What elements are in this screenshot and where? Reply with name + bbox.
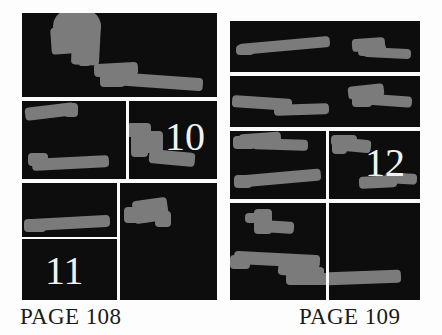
page-left[interactable]: 10 11 bbox=[22, 13, 217, 300]
panel-L5[interactable]: 11 bbox=[22, 239, 117, 300]
panel-L1[interactable] bbox=[22, 13, 217, 97]
page-caption-right: PAGE 109 bbox=[299, 305, 400, 328]
panel-L3[interactable]: 10 bbox=[129, 101, 217, 179]
panel-number-10: 10 bbox=[165, 117, 205, 157]
art-shape bbox=[110, 72, 204, 91]
art-shape bbox=[329, 270, 401, 286]
panel-R3[interactable] bbox=[230, 131, 326, 199]
panel-R1[interactable] bbox=[230, 21, 420, 72]
art-shape bbox=[28, 215, 111, 231]
art-shape bbox=[286, 273, 326, 285]
art-shape bbox=[64, 103, 78, 117]
panel-L4[interactable] bbox=[22, 183, 117, 237]
panel-R5[interactable] bbox=[230, 203, 326, 300]
panel-L6[interactable] bbox=[120, 183, 217, 300]
page-caption-left: PAGE 108 bbox=[20, 305, 121, 328]
page-right[interactable]: 12 bbox=[230, 21, 420, 300]
art-shape bbox=[363, 47, 411, 59]
panel-number-12: 12 bbox=[365, 143, 405, 183]
art-shape bbox=[274, 103, 329, 116]
panel-R6[interactable] bbox=[329, 203, 420, 300]
art-shape bbox=[252, 138, 308, 151]
art-shape bbox=[32, 155, 110, 171]
art-shape bbox=[155, 211, 171, 227]
art-shape bbox=[262, 220, 295, 234]
art-shape bbox=[238, 36, 331, 55]
page-spread: 10 11 bbox=[0, 0, 442, 335]
art-shape bbox=[79, 57, 90, 66]
art-shape bbox=[239, 168, 322, 187]
panel-R4[interactable]: 12 bbox=[329, 131, 420, 199]
panel-R2[interactable] bbox=[230, 76, 420, 127]
panel-number-11: 11 bbox=[45, 251, 84, 291]
panel-L2[interactable] bbox=[22, 101, 126, 179]
